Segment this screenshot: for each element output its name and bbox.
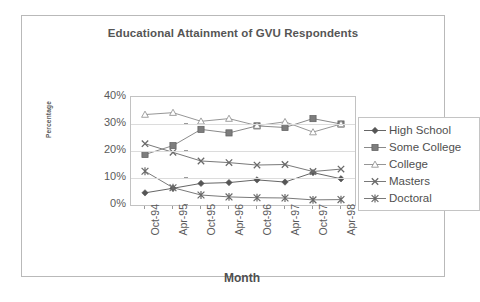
legend-key-square-icon bbox=[363, 140, 387, 153]
legend-item-doctoral[interactable]: Doctoral bbox=[359, 189, 479, 206]
y-axis-tick-label: 20% bbox=[86, 143, 126, 155]
legend-item-masters[interactable]: Masters bbox=[359, 172, 479, 189]
data-point-marker bbox=[198, 180, 204, 186]
data-point-marker bbox=[372, 127, 378, 133]
x-axis-tick-label: Oct-95 bbox=[205, 204, 217, 266]
legend-key-triangle-open-icon bbox=[363, 157, 387, 170]
x-axis-tick-mark bbox=[340, 206, 341, 209]
legend-item-college[interactable]: College bbox=[359, 155, 479, 172]
x-axis-tick-label: Apr-96 bbox=[233, 204, 245, 266]
legend-key-diamond-icon bbox=[363, 123, 387, 136]
x-axis-tick-labels: Oct-94Apr-95Oct-95Apr-96Oct-96Apr-97Oct-… bbox=[130, 206, 354, 268]
x-axis-tick-label: Oct-94 bbox=[149, 204, 161, 266]
data-point-marker bbox=[310, 116, 316, 122]
legend-item-high-school[interactable]: High School bbox=[359, 121, 479, 138]
data-point-marker bbox=[170, 143, 176, 149]
chart-outer-frame: Educational Attainment of GVU Respondent… bbox=[21, 15, 445, 277]
series-high-school bbox=[142, 169, 344, 196]
data-point-marker bbox=[142, 190, 148, 196]
y-axis-tick-label: 40% bbox=[86, 89, 126, 101]
x-axis-tick-mark bbox=[200, 206, 201, 209]
x-axis-tick-mark bbox=[228, 206, 229, 209]
data-point-marker bbox=[142, 151, 148, 157]
legend-label: Masters bbox=[387, 175, 430, 187]
x-axis-tick-mark bbox=[256, 206, 257, 209]
x-axis-tick-mark bbox=[312, 206, 313, 209]
x-axis-tick-label: Apr-95 bbox=[177, 204, 189, 266]
data-point-marker bbox=[226, 115, 233, 121]
data-point-marker bbox=[310, 169, 316, 175]
legend-key-x-icon bbox=[363, 174, 387, 187]
y-axis-title: Percentage bbox=[45, 85, 52, 155]
data-point-marker bbox=[142, 167, 149, 175]
data-point-marker bbox=[170, 109, 177, 115]
data-point-marker bbox=[226, 179, 232, 185]
data-point-marker bbox=[226, 130, 232, 136]
x-axis-tick-label: Apr-97 bbox=[289, 204, 301, 266]
x-axis-title: Month bbox=[130, 271, 354, 285]
data-point-marker bbox=[282, 124, 288, 130]
plot-area bbox=[130, 96, 356, 206]
gridline bbox=[131, 124, 355, 125]
data-point-marker bbox=[198, 126, 204, 132]
legend-label: Some College bbox=[387, 141, 461, 153]
y-axis-tick-label: 0% bbox=[86, 197, 126, 209]
legend-label: College bbox=[387, 158, 428, 170]
x-axis-tick-label: Oct-96 bbox=[261, 204, 273, 266]
chart-title: Educational Attainment of GVU Respondent… bbox=[22, 27, 444, 39]
x-axis-tick-label: Oct-97 bbox=[317, 204, 329, 266]
x-axis-tick-mark bbox=[172, 206, 173, 209]
gridline bbox=[131, 178, 355, 179]
y-axis-tick-labels: 0%10%20%30%40% bbox=[80, 96, 126, 204]
legend-label: High School bbox=[387, 124, 451, 136]
data-point-marker bbox=[372, 144, 378, 150]
data-point-marker bbox=[282, 179, 288, 185]
data-point-marker bbox=[142, 141, 148, 147]
x-axis-tick-mark bbox=[144, 206, 145, 209]
y-axis-tick-label: 30% bbox=[86, 116, 126, 128]
y-axis-tick-label: 10% bbox=[86, 170, 126, 182]
gridline bbox=[131, 151, 355, 152]
x-axis-tick-label: Apr-98 bbox=[345, 204, 357, 266]
chart-legend: High SchoolSome CollegeCollegeMastersDoc… bbox=[358, 117, 480, 211]
legend-key-star-icon bbox=[363, 191, 387, 204]
x-axis-tick-mark bbox=[284, 206, 285, 209]
legend-item-some-college[interactable]: Some College bbox=[359, 138, 479, 155]
legend-label: Doctoral bbox=[387, 192, 432, 204]
